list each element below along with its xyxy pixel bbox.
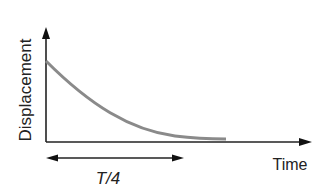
x-axis-label: Time: [273, 156, 308, 173]
x-axis-arrow-icon: [299, 138, 312, 146]
interval-arrow-right-icon: [172, 155, 184, 162]
interval-arrow-left-icon: [46, 155, 58, 162]
decay-curve: [46, 61, 226, 139]
y-axis-label: Displacement: [16, 38, 35, 141]
interval-label: T/4: [96, 169, 121, 188]
y-axis-arrow-icon: [42, 27, 50, 39]
displacement-time-diagram: T/4 Time Displacement: [0, 0, 332, 192]
